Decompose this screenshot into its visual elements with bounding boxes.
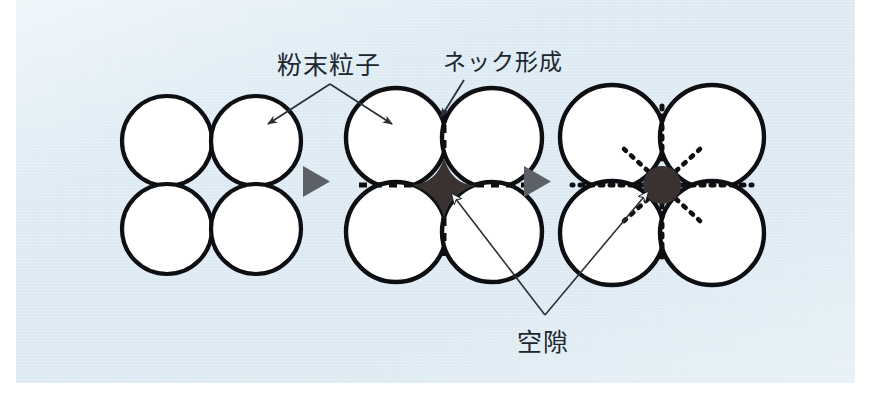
stage-1-particle-cluster (122, 96, 301, 274)
stage-3-particle-cluster (560, 85, 764, 285)
void-round (643, 166, 681, 204)
particle (122, 184, 212, 274)
label-neck-formation: ネック形成 (443, 43, 563, 77)
particle (442, 182, 542, 282)
sintering-process-figure: 粉末粒子 ネック形成 空隙 (0, 0, 869, 400)
sintering-diagram-svg (0, 0, 869, 400)
particle (211, 96, 301, 186)
particle (122, 96, 212, 186)
label-powder-particle: 粉末粒子 (277, 45, 381, 81)
particle (211, 184, 301, 274)
label-void: 空隙 (517, 322, 569, 358)
particle (346, 182, 446, 282)
stage-2-particle-cluster (346, 88, 542, 282)
stage-arrow-2 (524, 166, 551, 197)
stage-arrow-1 (303, 166, 330, 197)
